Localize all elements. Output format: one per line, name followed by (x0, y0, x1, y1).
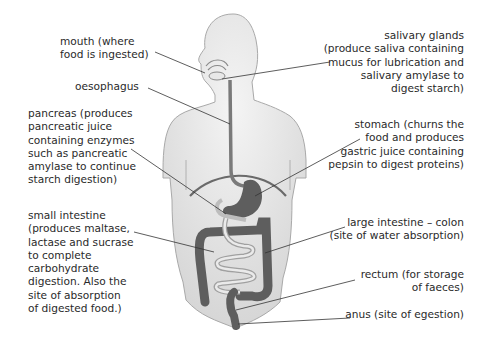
label-stomach: stomach (churns the food and produces ga… (328, 118, 464, 171)
label-oesophagus: oesophagus (75, 80, 139, 93)
label-anus: anus (site of egestion) (345, 308, 464, 321)
label-pancreas: pancreas (produces pancreatic juice cont… (28, 107, 136, 187)
label-salivary-glands: salivary glands (produce saliva containi… (324, 29, 464, 95)
label-large-intestine: large intestine – colon (site of water a… (330, 216, 465, 243)
label-mouth: mouth (where food is ingested) (60, 35, 149, 62)
label-rectum: rectum (for storage of faeces) (361, 268, 464, 295)
label-small-intestine: small intestine (produces maltase, lacta… (28, 209, 134, 315)
